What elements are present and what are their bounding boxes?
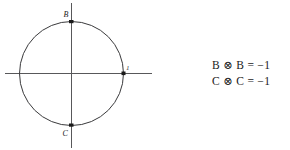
diagram-canvas: B 1 C [0,0,165,150]
unit-circle-diagram: B 1 C [0,0,165,150]
figure-page: B 1 C B ⊗ B = −1 C ⊗ C = −1 [0,0,290,150]
point-marker-b [69,20,74,23]
point-marker-c [69,124,74,127]
point-label-c: C [63,129,69,138]
equation-line-b: B ⊗ B = −1 [212,57,290,73]
point-marker-one [122,72,126,76]
point-label-b: B [64,10,69,19]
point-label-one: 1 [126,64,130,72]
equation-line-c: C ⊗ C = −1 [212,73,290,89]
equations-block: B ⊗ B = −1 C ⊗ C = −1 [212,57,290,89]
